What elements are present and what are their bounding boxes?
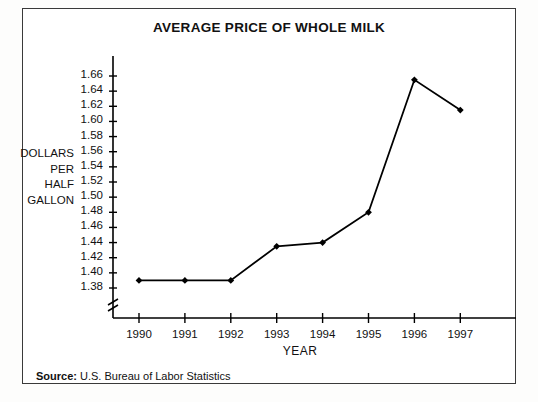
source-text: U.S. Bureau of Labor Statistics [80,370,230,382]
y-tick-label: 1.52 [65,174,103,186]
y-tick-label: 1.56 [65,144,103,156]
y-tick-label: 1.38 [65,280,103,292]
axes [108,56,516,318]
y-tick-label: 1.50 [65,189,103,201]
source-note: Source: U.S. Bureau of Labor Statistics [36,370,230,382]
data-series-milk-price [136,76,464,283]
x-tick-label: 1997 [433,328,487,340]
y-tick-label: 1.64 [65,83,103,95]
y-tick-label: 1.48 [65,204,103,216]
y-tick-label: 1.54 [65,159,103,171]
y-tick-label: 1.46 [65,219,103,231]
chart-figure: AVERAGE PRICE OF WHOLE MILK DOLLARS PER … [0,0,538,402]
y-tick-label: 1.42 [65,250,103,262]
y-tick-label: 1.40 [65,265,103,277]
tick-marks [109,76,460,323]
y-tick-label: 1.44 [65,235,103,247]
y-tick-label: 1.58 [65,129,103,141]
source-label: Source: [36,370,77,382]
y-tick-label: 1.62 [65,98,103,110]
y-tick-label: 1.60 [65,113,103,125]
y-tick-label: 1.66 [65,68,103,80]
